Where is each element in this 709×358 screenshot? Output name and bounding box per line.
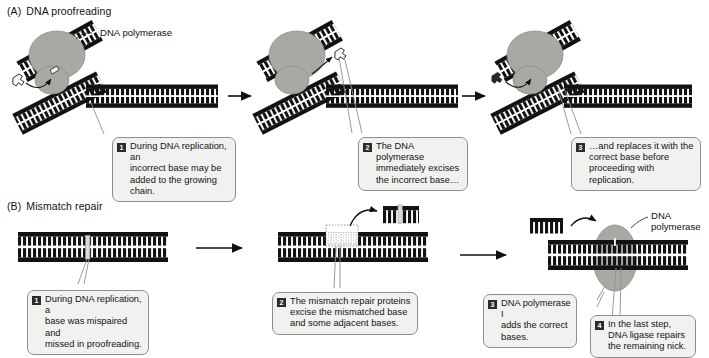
- panel-b-step2-duplex: [278, 225, 428, 288]
- panel-a-title: DNA proofreading: [26, 5, 111, 17]
- excision-arrow: [350, 210, 377, 226]
- callout-b-step1[interactable]: 1 During DNA replication, a base was mis…: [27, 290, 149, 355]
- panel-b-step1-duplex: [18, 232, 168, 284]
- step-badge: 2: [363, 143, 372, 152]
- fill-in-arrow: [571, 218, 596, 226]
- callout-text: In the last step, DNA ligase repairs the…: [608, 319, 686, 353]
- panel-b-title: Mismatch repair: [26, 200, 102, 212]
- panel-a-label: (A)DNA proofreading: [7, 5, 111, 17]
- nucleotide-icon-a3: [492, 73, 502, 84]
- excised-fragment: [383, 205, 419, 223]
- step-badge: 3: [488, 300, 497, 309]
- callout-b-step2[interactable]: 2 The mismatch repair proteins excise th…: [272, 292, 418, 335]
- dna-polymerase-label-a: DNA polymerase: [100, 27, 172, 38]
- callout-text: The DNA polymerase immediately excises t…: [376, 141, 462, 186]
- panel-a-step2-fork: [252, 20, 458, 135]
- panel-a-tag: (A): [7, 5, 21, 17]
- callout-b-step4[interactable]: 4 In the last step, DNA ligase repairs t…: [590, 315, 696, 358]
- callout-b-step3[interactable]: 3 DNA polymerase I adds the correct base…: [483, 294, 577, 348]
- panel-b-tag: (B): [7, 200, 21, 212]
- step-badge: 1: [32, 296, 41, 305]
- callout-text: During DNA replication, a base was mispa…: [45, 294, 143, 350]
- step-badge: 3: [576, 143, 585, 152]
- callout-a-step3[interactable]: 3 …and replaces it with the correct base…: [571, 137, 701, 191]
- callout-a-step2[interactable]: 2 The DNA polymerase immediately excises…: [358, 137, 468, 191]
- panel-b-label: (B)Mismatch repair: [7, 200, 102, 212]
- mismatched-base: [86, 235, 90, 259]
- dna-polymerase-label-b: DNA polymerase: [651, 210, 701, 232]
- step-badge: 1: [117, 143, 126, 152]
- step-badge: 4: [595, 321, 604, 330]
- callout-a-step1[interactable]: 1 During DNA replication, an incorrect b…: [112, 137, 236, 202]
- nucleotide-icon-a1: [13, 74, 24, 86]
- callout-text: DNA polymerase I adds the correct bases.: [501, 298, 571, 343]
- step-badge: 2: [277, 298, 286, 307]
- callout-text: The mismatch repair proteins excise the …: [290, 296, 410, 330]
- callout-text: …and replaces it with the correct base b…: [589, 141, 695, 186]
- panel-a-step3-fork: [490, 20, 692, 135]
- figure-dna-repair: (A)DNA proofreading (B)Mismatch repair D…: [0, 0, 709, 358]
- dna-polymerase-lobe: [275, 66, 309, 94]
- callout-text: During DNA replication, an incorrect bas…: [130, 141, 230, 197]
